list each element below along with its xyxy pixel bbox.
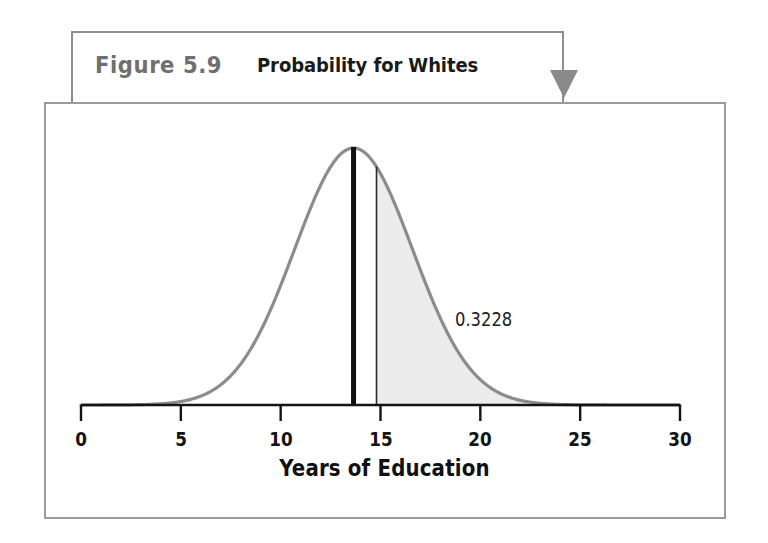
x-axis-tick-label: 20 — [469, 427, 492, 451]
x-axis-tick-label: 5 — [175, 427, 187, 451]
shaded-tail-region — [377, 167, 680, 405]
x-axis-title: Years of Education — [0, 455, 768, 481]
probability-value: 0.3228 — [455, 308, 512, 330]
x-axis-tick-label: 25 — [568, 427, 591, 451]
x-axis-tick-label: 0 — [75, 427, 87, 451]
x-axis-tick-label: 15 — [369, 427, 392, 451]
x-axis-ticks — [81, 405, 680, 421]
figure-caption-label: Probability for Whites — [257, 53, 478, 77]
triangle-down-icon — [547, 68, 581, 102]
x-axis-tick-label: 30 — [668, 427, 691, 451]
x-axis-title-text: Years of Education — [279, 455, 490, 481]
probability-annotation: 0.3228 — [455, 308, 521, 330]
figure-title: Figure 5.9 Probability for Whites — [95, 47, 503, 83]
figure-number-label: Figure 5.9 — [95, 52, 222, 78]
figure-page: Figure 5.9 Probability for Whites 051015… — [0, 0, 768, 543]
x-axis-tick-label: 10 — [269, 427, 292, 451]
